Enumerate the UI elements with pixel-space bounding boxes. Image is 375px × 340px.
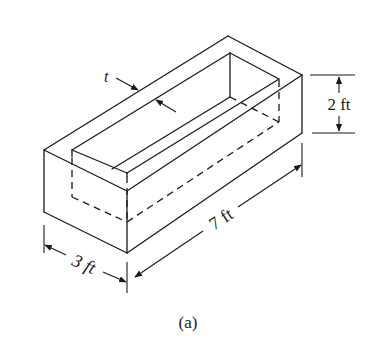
box-diagram: t 2 ft 7 ft 3 ft (a) xyxy=(0,0,375,340)
height-dimension: 2 ft xyxy=(310,75,355,133)
thickness-label: t xyxy=(104,68,109,85)
length-label: 7 ft xyxy=(205,204,236,234)
figure-caption: (a) xyxy=(179,313,198,332)
height-label: 2 ft xyxy=(327,95,350,114)
width-label: 3 ft xyxy=(68,250,99,279)
length-dimension: 7 ft xyxy=(127,143,302,293)
width-dimension: 3 ft xyxy=(44,225,126,282)
box-outline xyxy=(44,36,302,253)
